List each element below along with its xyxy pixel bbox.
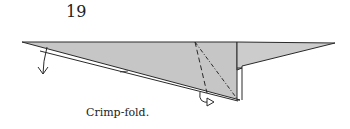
caption: Crimp-fold. xyxy=(86,106,149,119)
paper-model xyxy=(22,42,335,101)
origami-diagram xyxy=(0,0,350,129)
fold-arrow-down-icon xyxy=(38,47,48,74)
